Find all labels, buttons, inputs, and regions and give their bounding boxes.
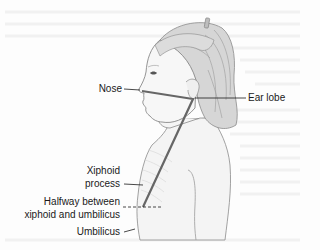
halfway-label-line2: xiphoid and umbilicus bbox=[24, 209, 120, 221]
ear-lobe-label: Ear lobe bbox=[248, 92, 285, 104]
torso-outline bbox=[137, 118, 231, 240]
xiphoid-label-line2: process bbox=[85, 178, 120, 190]
umbilicus-leader-line bbox=[124, 229, 135, 232]
xiphoid-label-line1: Xiphoid bbox=[87, 165, 120, 177]
nose-label: Nose bbox=[99, 83, 122, 95]
nose-leader-line bbox=[124, 89, 140, 90]
halfway-label-line1: Halfway between bbox=[44, 196, 120, 208]
umbilicus-label: Umbilicus bbox=[77, 226, 120, 238]
